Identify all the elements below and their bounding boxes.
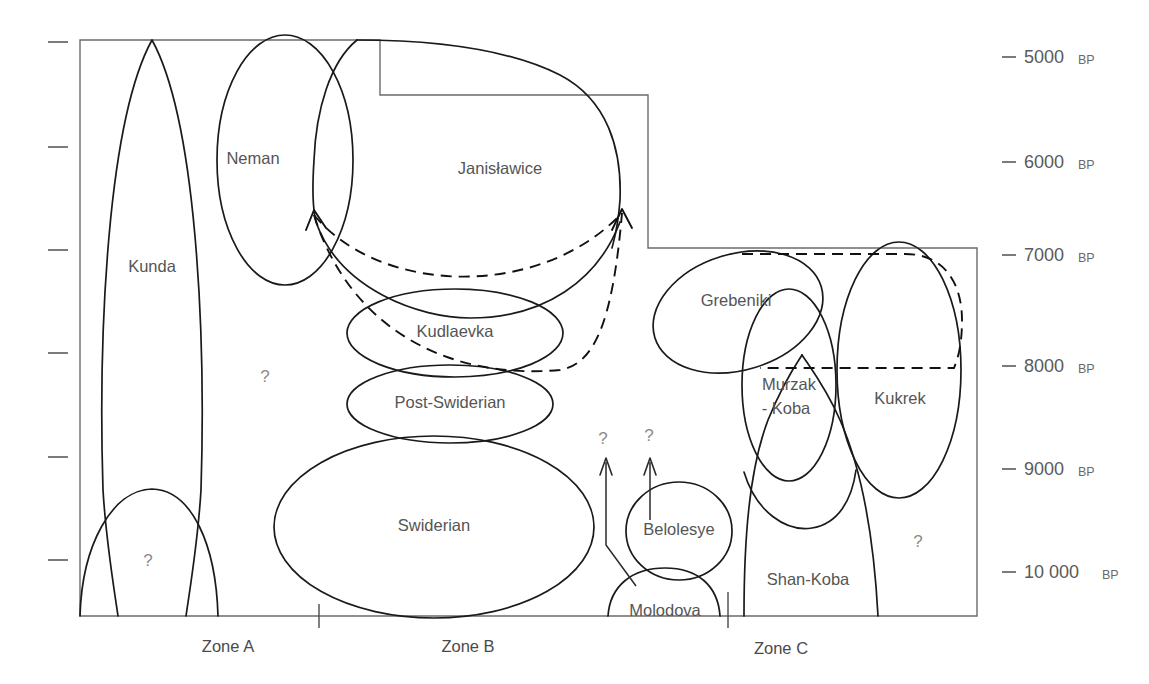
arrow-molodova-shaft	[606, 462, 636, 586]
axis-unit-8000: BP	[1078, 362, 1095, 376]
label-janislawice: Janisławice	[458, 159, 542, 177]
axis-ticks-left	[48, 42, 68, 560]
dashed-arc-outer	[314, 213, 622, 277]
connector-grebeniki-kukrek	[742, 254, 962, 368]
connector-molodova-arrow	[600, 458, 636, 586]
label-molodova: Molodova	[629, 601, 701, 619]
chronology-svg: 5000 BP 6000 BP 7000 BP 8000 BP 9000 BP …	[0, 0, 1149, 684]
query-mark-zone-a-lower: ?	[143, 551, 152, 570]
axis-unit-6000: BP	[1078, 158, 1095, 172]
query-mark-zone-a-mid: ?	[260, 367, 269, 386]
shape-kunda	[102, 40, 202, 616]
axis-value-9000: 9000	[1024, 459, 1064, 479]
diagram-frame	[80, 40, 977, 616]
label-kudlaevka: Kudlaevka	[416, 322, 494, 340]
connector-belolesye-arrow	[644, 458, 656, 520]
dashed-arc-kukrek	[742, 254, 962, 368]
axis-unit-5000: BP	[1078, 53, 1095, 67]
shape-janislawice	[357, 40, 620, 248]
axis-labels-right: 5000 BP 6000 BP 7000 BP 8000 BP 9000 BP …	[1002, 47, 1119, 583]
label-neman: Neman	[226, 149, 279, 167]
query-mark-arrow-right: ?	[644, 426, 653, 445]
axis-unit-10000: BP	[1102, 568, 1119, 582]
chronology-diagram: 5000 BP 6000 BP 7000 BP 8000 BP 9000 BP …	[0, 0, 1149, 684]
label-kukrek: Kukrek	[874, 389, 926, 407]
frame-outline	[80, 40, 977, 616]
zone-label-c: Zone C	[754, 639, 808, 657]
shape-janislawice-bottom	[316, 222, 620, 318]
label-grebeniki: Grebeniki	[701, 291, 772, 309]
axis-value-5000: 5000	[1024, 47, 1064, 67]
label-swiderian: Swiderian	[398, 516, 470, 534]
axis-value-10000: 10 000	[1024, 562, 1079, 582]
label-post-swiderian: Post-Swiderian	[395, 393, 506, 411]
label-kunda: Kunda	[128, 257, 177, 275]
axis-value-7000: 7000	[1024, 245, 1064, 265]
axis-value-8000: 8000	[1024, 356, 1064, 376]
axis-unit-9000: BP	[1078, 465, 1095, 479]
axis-value-6000: 6000	[1024, 152, 1064, 172]
shape-kukrek	[837, 242, 961, 498]
label-belolesye: Belolesye	[643, 520, 715, 538]
query-mark-arrow-left: ?	[598, 429, 607, 448]
zone-label-a: Zone A	[202, 637, 254, 655]
dashed-arc-inner	[314, 213, 622, 371]
label-murzak-koba-line1: Murzak	[762, 375, 817, 393]
axis-unit-7000: BP	[1078, 251, 1095, 265]
label-shan-koba: Shan-Koba	[767, 570, 850, 588]
label-murzak-koba-line2: - Koba	[762, 399, 811, 417]
zone-label-b: Zone B	[441, 637, 494, 655]
query-mark-zone-c-lower: ?	[913, 532, 922, 551]
